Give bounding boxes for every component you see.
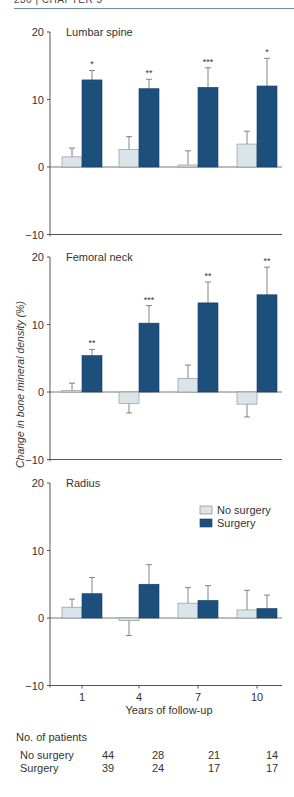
bar-surgery bbox=[82, 594, 102, 618]
count-cell: 24 bbox=[148, 762, 168, 774]
bar-no-surgery bbox=[178, 165, 198, 167]
bar-surgery bbox=[198, 87, 218, 167]
bar-surgery bbox=[257, 609, 277, 618]
significance-marker: ** bbox=[263, 256, 271, 266]
bar-no-surgery bbox=[178, 603, 198, 618]
chart-panels: −1001020Lumbar spine*******−1001020Femor… bbox=[25, 26, 282, 692]
significance-marker: *** bbox=[203, 57, 214, 67]
count-cell: 21 bbox=[204, 749, 224, 761]
x-tick-label: 4 bbox=[136, 691, 142, 703]
bar-surgery bbox=[257, 295, 277, 392]
count-cell: 14 bbox=[262, 749, 282, 761]
bar-surgery bbox=[198, 600, 218, 618]
legend-label-surgery: Surgery bbox=[217, 517, 256, 529]
x-axis-label: Years of follow-up bbox=[125, 704, 212, 716]
bar-surgery bbox=[82, 80, 102, 167]
panel-lumbar-spine: −1001020Lumbar spine******* bbox=[25, 26, 282, 241]
panel-femoral-neck: −1001020Femoral neck********* bbox=[25, 251, 282, 466]
bar-surgery bbox=[139, 89, 159, 167]
bar-no-surgery bbox=[62, 607, 82, 618]
bone-density-chart: −1001020Lumbar spine*******−1001020Femor… bbox=[0, 0, 294, 797]
bar-no-surgery bbox=[237, 144, 257, 167]
significance-marker: ** bbox=[145, 68, 153, 78]
bar-no-surgery bbox=[119, 149, 139, 167]
bar-no-surgery bbox=[119, 618, 139, 621]
y-tick-label: −10 bbox=[25, 680, 44, 692]
legend: No surgery Surgery bbox=[200, 504, 271, 529]
y-tick-label: 20 bbox=[32, 251, 44, 263]
y-tick-label: 20 bbox=[32, 26, 44, 38]
bar-surgery bbox=[139, 323, 159, 392]
patients-row-surgery: Surgery 39 24 17 17 bbox=[20, 762, 59, 774]
bar-no-surgery bbox=[119, 392, 139, 403]
y-axis-label: Change in bone mineral density (%) bbox=[14, 301, 26, 468]
legend-label-no-surgery: No surgery bbox=[217, 504, 271, 516]
bar-surgery bbox=[198, 303, 218, 392]
bar-surgery bbox=[139, 584, 159, 618]
y-tick-label: 0 bbox=[38, 386, 44, 398]
bar-no-surgery bbox=[178, 379, 198, 393]
y-tick-label: 10 bbox=[32, 545, 44, 557]
row-label: No surgery bbox=[20, 749, 74, 761]
panel-title: Lumbar spine bbox=[66, 26, 133, 38]
y-tick-label: 0 bbox=[38, 612, 44, 624]
y-tick-label: −10 bbox=[25, 229, 44, 241]
significance-marker: * bbox=[265, 47, 269, 57]
x-tick-label: 7 bbox=[195, 691, 201, 703]
bar-no-surgery bbox=[237, 392, 257, 404]
bar-no-surgery bbox=[62, 157, 82, 167]
y-tick-label: 10 bbox=[32, 94, 44, 106]
legend-swatch-no-surgery bbox=[200, 506, 212, 514]
count-cell: 17 bbox=[204, 762, 224, 774]
y-tick-label: 0 bbox=[38, 161, 44, 173]
panel-title: Radius bbox=[66, 477, 101, 489]
x-tick-label: 10 bbox=[251, 691, 263, 703]
x-tick-label: 1 bbox=[79, 691, 85, 703]
legend-swatch-surgery bbox=[200, 519, 212, 527]
significance-marker: ** bbox=[88, 338, 96, 348]
significance-marker: ** bbox=[204, 271, 212, 281]
patients-row-no-surgery: No surgery 44 28 21 14 bbox=[20, 749, 74, 761]
panel-title: Femoral neck bbox=[66, 251, 133, 263]
x-axis-ticks: 14710 bbox=[79, 686, 263, 703]
bar-surgery bbox=[257, 86, 277, 167]
count-cell: 39 bbox=[98, 762, 118, 774]
bar-no-surgery bbox=[62, 391, 82, 392]
significance-marker: * bbox=[90, 59, 94, 69]
bar-no-surgery bbox=[237, 610, 257, 618]
significance-marker: *** bbox=[144, 295, 155, 305]
count-cell: 17 bbox=[262, 762, 282, 774]
count-cell: 44 bbox=[98, 749, 118, 761]
row-label: Surgery bbox=[20, 762, 59, 774]
count-cell: 28 bbox=[148, 749, 168, 761]
y-tick-label: 20 bbox=[32, 477, 44, 489]
y-tick-label: −10 bbox=[25, 454, 44, 466]
patients-heading: No. of patients bbox=[16, 731, 87, 743]
y-tick-label: 10 bbox=[32, 319, 44, 331]
bar-surgery bbox=[82, 356, 102, 392]
